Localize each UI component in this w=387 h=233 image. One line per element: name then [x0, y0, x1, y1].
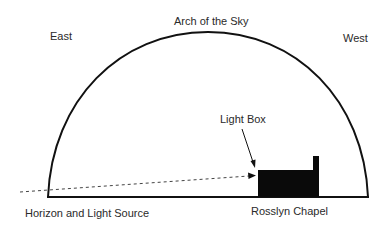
- chapel-tower: [313, 156, 319, 197]
- light-box-pointer: [242, 129, 253, 162]
- west-label: West: [343, 32, 368, 44]
- horizon-label: Horizon and Light Source: [25, 207, 149, 219]
- sky-arch: [48, 32, 368, 197]
- chapel-body: [258, 170, 318, 197]
- light-ray-dashed: [20, 176, 249, 192]
- light-box-arrowhead-icon: [251, 160, 256, 169]
- east-label: East: [50, 30, 72, 42]
- arch-label: Arch of the Sky: [174, 15, 249, 27]
- light-ray-arrowhead-icon: [248, 173, 256, 180]
- chapel-label: Rosslyn Chapel: [251, 205, 328, 217]
- light-box-label: Light Box: [220, 113, 266, 125]
